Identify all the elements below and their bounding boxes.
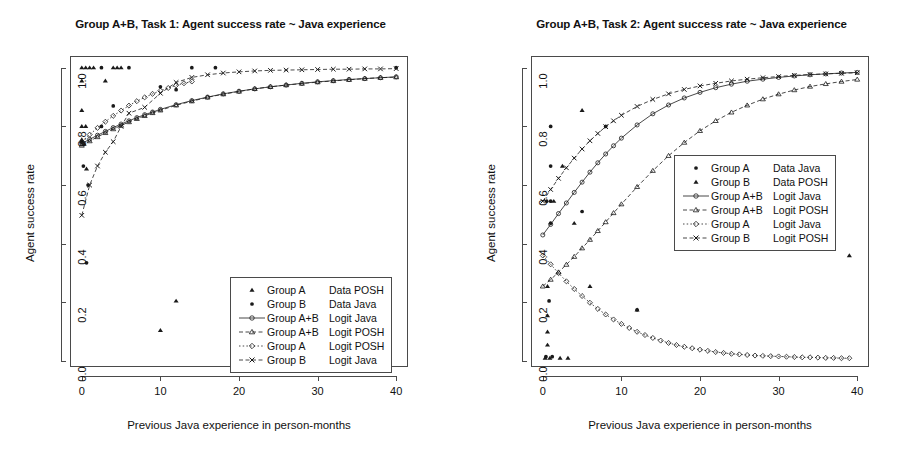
y-axis-line <box>522 68 523 361</box>
legend-item: Group A+BLogit POSH <box>681 203 828 217</box>
legend-task1: Group AData POSHGroup BData JavaGroup A+… <box>230 277 392 373</box>
y-tick-label: 1.0 <box>537 67 549 95</box>
legend-group-label: Group B <box>711 176 773 188</box>
y-tick <box>61 361 66 362</box>
legend-item: Group A+BLogit POSH <box>237 325 384 339</box>
series-group-a-logit-java <box>540 253 852 361</box>
legend-measure-label: Logit POSH <box>329 340 384 352</box>
legend-measure-label: Logit Java <box>773 190 821 202</box>
x-tick <box>857 376 858 381</box>
x-axis-label-task1: Previous Java experience in person-month… <box>70 419 408 431</box>
legend-measure-label: Logit POSH <box>773 204 828 216</box>
legend-marker-triangle-open-icon <box>237 325 267 339</box>
legend-marker-diamond-open-icon <box>237 339 267 353</box>
legend-marker-cross-icon <box>237 353 267 367</box>
x-tick-label: 40 <box>842 385 872 397</box>
legend-group-label: Group A <box>711 162 773 174</box>
legend-item: Group BData Java <box>237 297 384 311</box>
legend-group-label: Group B <box>267 354 329 366</box>
legend-group-label: Group A <box>267 340 329 352</box>
legend-item: Group BLogit Java <box>237 353 384 367</box>
legend-group-label: Group A+B <box>711 190 773 202</box>
legend-item: Group A+BLogit Java <box>237 311 384 325</box>
legend-item: Group BData POSH <box>681 175 828 189</box>
y-tick <box>522 361 527 362</box>
y-tick-label: 1.0 <box>76 67 88 95</box>
series-group-a-b-logit-java <box>80 75 398 146</box>
legend-item: Group A+BLogit Java <box>681 189 828 203</box>
y-tick-label: 0.0 <box>76 360 88 388</box>
legend-group-label: Group A <box>267 284 329 296</box>
y-axis-line <box>61 68 62 361</box>
y-tick-label: 0.6 <box>76 184 88 212</box>
legend-measure-label: Logit Java <box>773 218 821 230</box>
chart-panel-task1: Group A+B, Task 1: Agent success rate ~ … <box>0 0 461 467</box>
legend-measure-label: Data POSH <box>329 284 384 296</box>
y-tick-label: 0.2 <box>537 301 549 329</box>
x-tick-label: 10 <box>606 385 636 397</box>
x-tick-label: 10 <box>145 385 175 397</box>
legend-marker-circle-filled-icon <box>681 161 711 175</box>
y-axis-label-task1: Agent success rate <box>24 164 36 262</box>
y-axis-label-task2: Agent success rate <box>485 164 497 262</box>
legend-item: Group BLogit POSH <box>681 231 828 245</box>
legend-group-label: Group B <box>267 298 329 310</box>
legend-task2: Group AData JavaGroup BData POSHGroup A+… <box>674 155 836 251</box>
legend-group-label: Group A+B <box>711 204 773 216</box>
legend-marker-triangle-filled-icon <box>681 175 711 189</box>
x-tick-label: 30 <box>303 385 333 397</box>
legend-item: Group ALogit POSH <box>237 339 384 353</box>
x-axis-line <box>82 376 396 377</box>
legend-measure-label: Logit Java <box>329 354 377 366</box>
legend-measure-label: Data POSH <box>773 176 828 188</box>
legend-measure-label: Data Java <box>773 162 820 174</box>
chart-panel-task2: Group A+B, Task 2: Agent success rate ~ … <box>461 0 922 467</box>
legend-item: Group AData Java <box>681 161 828 175</box>
legend-group-label: Group A+B <box>267 312 329 324</box>
legend-group-label: Group B <box>711 232 773 244</box>
legend-group-label: Group A+B <box>267 326 329 338</box>
legend-marker-circle-open-icon <box>681 189 711 203</box>
legend-group-label: Group A <box>711 218 773 230</box>
figure-root: Group A+B, Task 1: Agent success rate ~ … <box>0 0 922 467</box>
legend-measure-label: Data Java <box>329 298 376 310</box>
y-tick-label: 0.4 <box>537 243 549 271</box>
legend-marker-circle-open-icon <box>237 311 267 325</box>
legend-marker-diamond-open-icon <box>681 217 711 231</box>
legend-marker-circle-filled-icon <box>237 297 267 311</box>
x-tick-label: 20 <box>685 385 715 397</box>
legend-measure-label: Logit POSH <box>773 232 828 244</box>
x-tick-label: 40 <box>381 385 411 397</box>
x-tick-label: 30 <box>764 385 794 397</box>
x-tick <box>396 376 397 381</box>
legend-item: Group ALogit Java <box>681 217 828 231</box>
legend-measure-label: Logit Java <box>329 312 377 324</box>
legend-marker-cross-icon <box>681 231 711 245</box>
y-tick-label: 0.8 <box>537 125 549 153</box>
legend-marker-triangle-open-icon <box>681 203 711 217</box>
x-axis-label-task2: Previous Java experience in person-month… <box>531 419 869 431</box>
legend-item: Group AData POSH <box>237 283 384 297</box>
y-tick-label: 0.8 <box>76 125 88 153</box>
y-tick-label: 0.0 <box>537 360 549 388</box>
series-group-b-data-java <box>80 66 398 265</box>
legend-marker-triangle-filled-icon <box>237 283 267 297</box>
x-tick-label: 20 <box>224 385 254 397</box>
y-tick-label: 0.2 <box>76 301 88 329</box>
y-tick-label: 0.6 <box>537 184 549 212</box>
x-axis-line <box>543 376 857 377</box>
legend-measure-label: Logit POSH <box>329 326 384 338</box>
y-tick-label: 0.4 <box>76 243 88 271</box>
